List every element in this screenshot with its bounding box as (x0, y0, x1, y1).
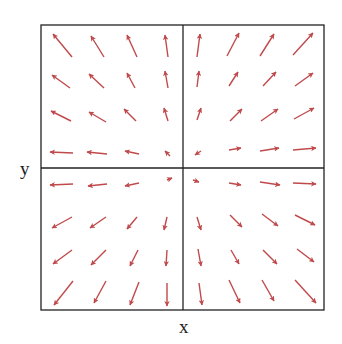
vector-arrow (197, 34, 200, 57)
vector-arrow (130, 282, 139, 305)
vector-arrow (295, 280, 316, 303)
vector-arrow (124, 109, 136, 121)
vector-arrow (94, 281, 106, 303)
vector-arrow (295, 73, 313, 86)
vector-arrow (167, 178, 172, 180)
vector-arrow (295, 215, 315, 225)
vector-arrow (260, 148, 279, 151)
vector-arrow (165, 35, 168, 57)
vector-arrow (52, 75, 70, 88)
vector-arrow (263, 72, 276, 86)
vector-arrow (230, 215, 242, 227)
vector-arrow (294, 108, 314, 119)
vector-arrow (166, 250, 167, 266)
vector-arrow (229, 280, 240, 303)
vector-arrow (198, 249, 201, 266)
vector-arrow (227, 33, 239, 56)
vector-arrow (53, 250, 72, 264)
vector-arrow (229, 72, 238, 86)
vector-arrow (125, 183, 139, 186)
vector-arrow (195, 151, 201, 155)
vector-arrow (91, 36, 104, 57)
vector-arrow (88, 184, 107, 186)
vector-arrow (262, 214, 278, 226)
vector-arrow (50, 152, 73, 153)
vector-arrow (293, 33, 313, 55)
vector-arrow (125, 151, 139, 154)
vector-arrow (164, 108, 168, 121)
vector-arrow (54, 281, 73, 305)
vector-arrow (127, 35, 137, 57)
vector-arrow (297, 249, 314, 262)
vector-field-plot: y x (0, 0, 342, 344)
vector-arrow (89, 74, 104, 88)
vector-arrow (231, 250, 239, 264)
vector-arrow (229, 183, 241, 185)
vector-arrow (87, 152, 107, 154)
vector-arrow (260, 34, 274, 56)
vector-arrow (199, 283, 202, 305)
vector-arrow (89, 112, 106, 122)
vector-arrow (52, 217, 72, 228)
vector-arrow (164, 217, 167, 230)
y-axis-label: y (20, 158, 30, 179)
vector-arrow (51, 111, 71, 121)
vector-arrow (260, 182, 280, 185)
vector-arrow (165, 71, 168, 88)
vector-arrow (229, 148, 241, 150)
vector-arrow (193, 180, 199, 182)
vector-arrow (90, 217, 106, 228)
vector-arrow (127, 73, 135, 88)
vector-arrow (293, 148, 316, 150)
vector-arrow (53, 34, 72, 57)
vector-arrow (293, 183, 316, 184)
vector-arrow (165, 151, 170, 156)
vector-arrow (197, 71, 199, 87)
x-axis-label: x (179, 316, 189, 337)
vector-arrow (197, 108, 201, 120)
vector-arrow (197, 217, 201, 230)
vector-arrow (91, 250, 106, 265)
vector-arrow (127, 217, 137, 229)
vector-arrow (230, 109, 242, 121)
vector-arrow (261, 109, 278, 121)
vector-arrow (262, 280, 274, 301)
vector-arrow (50, 184, 73, 185)
vector-arrow (130, 250, 138, 266)
vector-arrow (263, 250, 277, 264)
